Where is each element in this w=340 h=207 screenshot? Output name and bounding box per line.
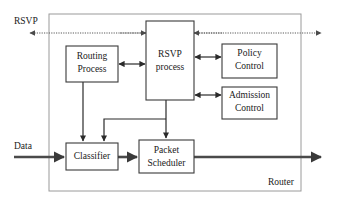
packet-scheduler-label-line1: Packet bbox=[154, 145, 180, 155]
rsvp-to-classifier-link bbox=[104, 119, 166, 141]
node-routing-process[interactable]: Routing Process bbox=[66, 46, 118, 82]
classifier-label: Classifier bbox=[74, 151, 111, 161]
rsvp-router-diagram: Routing Process RSVP process Policy Cont… bbox=[0, 0, 340, 207]
node-policy-control[interactable]: Policy Control bbox=[222, 44, 277, 78]
node-rsvp-process[interactable]: RSVP process bbox=[146, 21, 194, 100]
rsvp-process-box[interactable] bbox=[146, 21, 194, 100]
rsvp-label: RSVP bbox=[14, 16, 38, 26]
rsvp-process-label-line2: process bbox=[156, 62, 185, 72]
diagram-canvas: Routing Process RSVP process Policy Cont… bbox=[0, 0, 340, 207]
router-label: Router bbox=[268, 177, 295, 187]
node-classifier[interactable]: Classifier bbox=[66, 143, 118, 170]
packet-scheduler-label-line2: Scheduler bbox=[148, 158, 187, 168]
routing-process-label-line2: Process bbox=[77, 64, 106, 74]
rsvp-process-label-line1: RSVP bbox=[158, 49, 182, 59]
policy-control-label-line1: Policy bbox=[237, 48, 262, 58]
policy-control-label-line2: Control bbox=[235, 61, 264, 71]
data-label: Data bbox=[14, 141, 33, 151]
node-admission-control[interactable]: Admission Control bbox=[222, 87, 277, 119]
routing-process-label-line1: Routing bbox=[77, 51, 108, 61]
admission-control-label-line2: Control bbox=[235, 103, 264, 113]
node-packet-scheduler[interactable]: Packet Scheduler bbox=[139, 140, 194, 173]
admission-control-label-line1: Admission bbox=[229, 90, 270, 100]
